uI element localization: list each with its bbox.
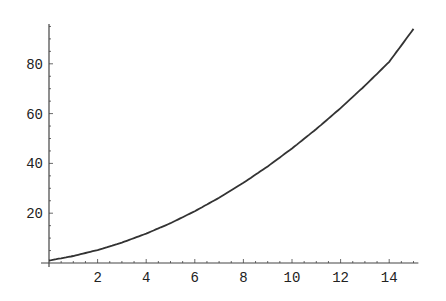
x-tick-label: 14 xyxy=(381,270,398,286)
axes xyxy=(41,24,418,267)
x-tick-label: 2 xyxy=(93,270,101,286)
tick-labels: 246810121420406080 xyxy=(26,57,397,286)
line-chart: 246810121420406080 xyxy=(0,0,446,301)
y-tick-label: 20 xyxy=(26,206,43,222)
y-tick-label: 40 xyxy=(26,156,43,172)
x-tick-label: 6 xyxy=(191,270,199,286)
x-tick-label: 12 xyxy=(332,270,349,286)
y-tick-label: 60 xyxy=(26,107,43,123)
axis-ticks xyxy=(49,26,414,263)
y-tick-label: 80 xyxy=(26,57,43,73)
x-tick-label: 4 xyxy=(142,270,150,286)
x-tick-label: 10 xyxy=(284,270,301,286)
x-tick-label: 8 xyxy=(239,270,247,286)
data-curve xyxy=(49,29,414,261)
